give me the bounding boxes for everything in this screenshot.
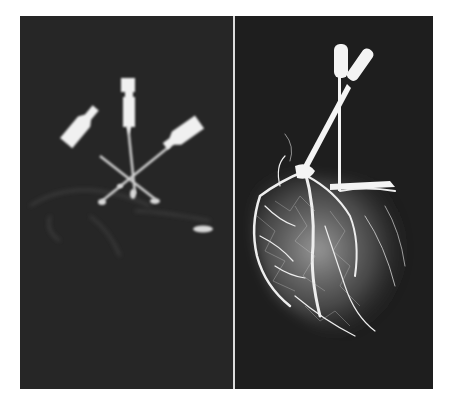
left-panel-radiograph (20, 16, 233, 389)
heart-vasculature-image (235, 16, 433, 389)
cannulas-image (20, 16, 233, 389)
right-panel-radiograph (235, 16, 433, 389)
